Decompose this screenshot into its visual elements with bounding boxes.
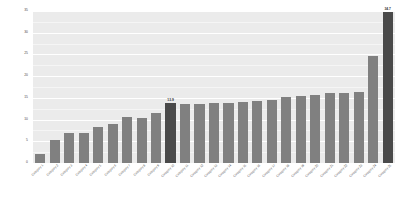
x-axis-tick-label: Category 24 [363,164,377,178]
bar-value-label: 34.7 [385,8,391,11]
bar[interactable] [310,95,320,163]
bar-chart-figure: 05101520253035 13.934.7 Category 1Catego… [0,0,406,201]
bar[interactable] [35,154,45,163]
bar[interactable] [223,103,233,163]
bar[interactable] [180,104,190,163]
bar[interactable] [93,127,103,163]
x-axis-tick-label: Category 3 [60,164,73,177]
y-axis-tick-label: 35 [24,9,28,12]
x-axis-tick-label: Category 8 [133,164,146,177]
y-axis-tick-label: 5 [26,140,28,143]
y-axis-tick-label: 30 [24,31,28,34]
bar[interactable] [383,12,393,163]
x-axis-tick-label: Category 9 [147,164,160,177]
bar[interactable] [296,96,306,163]
bar[interactable] [281,97,291,163]
bar[interactable] [165,103,175,163]
bar[interactable] [368,56,378,163]
x-axis-tick-label: Category 1 [32,164,45,177]
y-axis-tick-label: 25 [24,53,28,56]
bar[interactable] [354,92,364,163]
bar[interactable] [267,100,277,163]
y-axis-tick-label: 15 [24,96,28,99]
x-axis-tick-label: Category 7 [118,164,131,177]
x-axis-tick-label: Category 11 [175,164,189,178]
x-axis-tick-label: Category 10 [161,164,175,178]
x-axis-tick-label: Category 25 [378,164,392,178]
x-axis-tick-label: Category 4 [75,164,88,177]
x-axis-tick-label: Category 20 [305,164,319,178]
x-axis-tick-label: Category 12 [190,164,204,178]
x-axis-tick-label: Category 19 [291,164,305,178]
bar[interactable] [50,140,60,163]
bar[interactable] [252,101,262,163]
y-axis-tick-label: 0 [26,161,28,164]
bar-series: 13.934.7 [33,11,395,163]
x-axis-tick-label: Category 23 [349,164,363,178]
x-axis-tick-label: Category 5 [89,164,102,177]
bar[interactable] [122,117,132,163]
x-axis-tick-label: Category 2 [46,164,59,177]
x-axis-tick-label: Category 6 [104,164,117,177]
y-axis-tick-label: 20 [24,74,28,77]
y-axis-tick-label: 10 [24,118,28,121]
x-axis-tick-label: Category 15 [233,164,247,178]
x-axis-tick-label: Category 22 [334,164,348,178]
bar[interactable] [151,113,161,163]
bar[interactable] [79,133,89,163]
x-axis: Category 1Category 2Category 3Category 4… [33,164,395,201]
bar[interactable] [325,93,335,163]
x-axis-tick-label: Category 14 [219,164,233,178]
bar[interactable] [64,133,74,163]
x-axis-tick-label: Category 13 [204,164,218,178]
x-axis-tick-label: Category 18 [276,164,290,178]
bar[interactable] [194,104,204,163]
bar[interactable] [108,124,118,163]
y-axis: 05101520253035 [0,11,31,163]
bar[interactable] [238,102,248,163]
x-axis-tick-label: Category 16 [248,164,262,178]
x-axis-tick-label: Category 21 [320,164,334,178]
bar-value-label: 13.9 [167,98,173,101]
bar[interactable] [137,118,147,163]
bar[interactable] [209,103,219,163]
x-axis-tick-label: Category 17 [262,164,276,178]
bar[interactable] [339,93,349,163]
